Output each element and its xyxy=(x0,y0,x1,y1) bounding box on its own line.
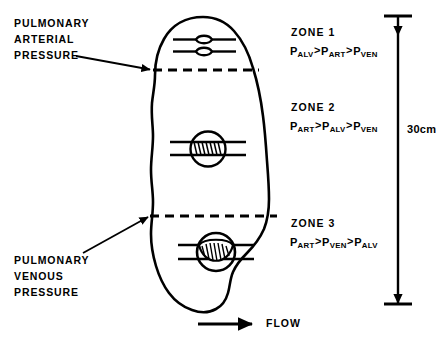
zone-3-formula: PART>PVEN>PALV xyxy=(290,237,378,248)
zone-3-sub-2: VEN xyxy=(330,241,347,250)
zone-3-sub-3: ALV xyxy=(362,241,378,250)
zone-1-term-1: P xyxy=(290,45,298,57)
arterial-pressure-label-line2: ARTERIAL xyxy=(14,34,74,45)
lung-zones-diagram: PULMONARY ARTERIAL PRESSURE PULMONARY VE… xyxy=(0,0,445,340)
zone-2-operator-1: > xyxy=(314,119,322,131)
zone-2-operator-2: > xyxy=(346,119,354,131)
zone-3-term-2: P xyxy=(322,236,330,248)
zone-1-term-2: P xyxy=(321,45,329,57)
zone1-collapsed-vessel-upper xyxy=(196,36,212,44)
zone-2-term-2: P xyxy=(322,120,330,132)
zone-2-sub-3: VEN xyxy=(361,125,378,134)
zone1-collapsed-vessel-lower xyxy=(196,48,212,56)
zone-2-title: ZONE 2 xyxy=(291,102,336,113)
zone-2-sub-1: ART xyxy=(298,125,315,134)
zone-1-term-3: P xyxy=(353,45,361,57)
zone-3-sub-1: ART xyxy=(298,241,315,250)
zone-3-term-1: P xyxy=(290,236,298,248)
venous-pressure-label-line2: VENOUS xyxy=(14,271,64,282)
zone-1-title: ZONE 1 xyxy=(291,27,336,38)
leader-arrows xyxy=(76,56,150,253)
venous-pressure-leader xyxy=(83,217,148,253)
zone-1-operator-2: > xyxy=(346,44,354,56)
zone-3-operator-2: > xyxy=(347,235,355,247)
zone-2-term-3: P xyxy=(353,120,361,132)
zone-1-sub-3: VEN xyxy=(361,50,378,59)
flow-label: FLOW xyxy=(266,318,301,329)
zone-1-operator-1: > xyxy=(313,44,321,56)
zone-1-formula: PALV>PART>PVEN xyxy=(290,46,378,57)
dimension-top-arrowhead xyxy=(393,26,402,36)
zone-2-sub-2: ALV xyxy=(330,125,346,134)
zone-3-title: ZONE 3 xyxy=(291,218,336,229)
arterial-pressure-label-line3: PRESSURE xyxy=(14,50,79,61)
arterial-pressure-label-line1: PULMONARY xyxy=(14,18,89,29)
zone-2-term-1: P xyxy=(290,120,298,132)
zone-3-operator-1: > xyxy=(314,235,322,247)
arterial-pressure-leader xyxy=(76,56,150,70)
venous-pressure-label-line1: PULMONARY xyxy=(14,255,89,266)
zone-2-formula: PART>PALV>PVEN xyxy=(290,121,378,132)
venous-pressure-label-line3: PRESSURE xyxy=(14,287,79,298)
height-dimension-label: 30cm xyxy=(407,124,436,135)
height-dimension-bar xyxy=(384,16,412,304)
zone-1-sub-2: ART xyxy=(329,50,346,59)
zone-1-sub-1: ALV xyxy=(298,50,314,59)
zone-3-term-3: P xyxy=(354,236,362,248)
